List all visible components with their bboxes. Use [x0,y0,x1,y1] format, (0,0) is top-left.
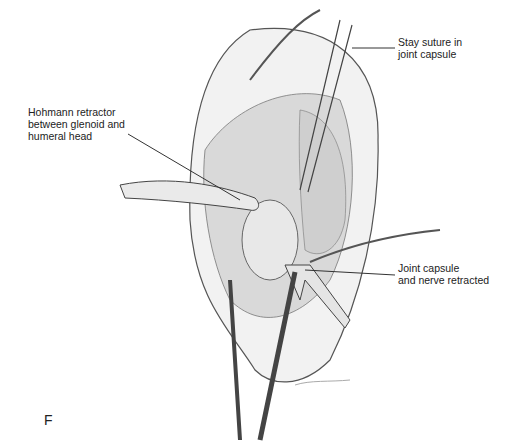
label-stay-suture: Stay suture in joint capsule [398,36,462,60]
label-joint-capsule-retracted: Joint capsule and nerve retracted [398,262,489,286]
surgical-illustration [0,0,512,447]
artist-signature [295,380,350,385]
panel-letter: F [44,412,53,428]
label-hohmann-retractor: Hohmann retractor between glenoid and hu… [28,106,125,142]
